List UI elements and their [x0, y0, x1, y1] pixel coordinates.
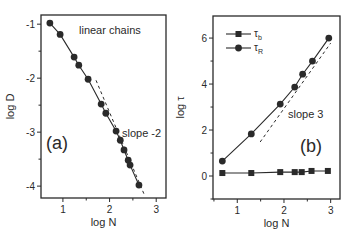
circle-marker: [121, 147, 128, 154]
legend-label: τb: [254, 28, 262, 41]
y-axis-label: log τ: [174, 96, 186, 119]
x-axis-label: log N: [91, 216, 117, 228]
y-tick-label: 0: [201, 171, 207, 182]
circle-marker: [309, 58, 316, 65]
x-tick-label: 1: [234, 205, 240, 216]
two-panel-chart: 123-1-2-3-4log Nlog Dlinear chainsslope …: [0, 0, 353, 244]
legend-square-marker: [236, 31, 242, 37]
annotation-text: linear chains: [79, 24, 141, 36]
circle-marker: [127, 162, 134, 169]
reference-slope-line: [260, 43, 331, 142]
panel-label: (b): [300, 136, 322, 156]
y-tick-label: -1: [26, 19, 35, 30]
circle-marker: [325, 35, 332, 42]
circle-marker: [299, 71, 306, 78]
circle-marker: [136, 182, 143, 189]
y-tick-label: 6: [201, 33, 207, 44]
panel-a-chart: 123-1-2-3-4log Nlog Dlinear chainsslope …: [4, 15, 166, 228]
y-tick-label: -2: [26, 73, 35, 84]
circle-marker: [85, 76, 92, 83]
circle-marker: [291, 84, 298, 91]
circle-marker: [46, 20, 53, 27]
square-marker: [277, 169, 283, 175]
square-marker: [299, 169, 305, 175]
circle-marker: [75, 62, 82, 69]
circle-marker: [102, 110, 109, 117]
x-tick-label: 3: [153, 204, 159, 215]
slope-annotation: slope 3: [288, 108, 323, 120]
legend-circle-marker: [235, 45, 242, 52]
circle-marker: [248, 131, 255, 138]
square-marker: [325, 168, 331, 174]
square-marker: [248, 170, 254, 176]
y-tick-label: 4: [201, 79, 207, 90]
circle-marker: [98, 101, 105, 108]
circle-marker: [57, 31, 64, 38]
legend: τbτR: [226, 28, 263, 55]
y-tick-label: 2: [201, 125, 207, 136]
figure: 123-1-2-3-4log Nlog Dlinear chainsslope …: [0, 0, 353, 244]
x-tick-label: 1: [60, 204, 66, 215]
panel-label: (a): [46, 133, 68, 153]
circle-marker: [71, 54, 78, 61]
y-tick-label: -4: [26, 181, 35, 192]
circle-marker: [113, 128, 120, 135]
square-marker: [292, 169, 298, 175]
panel-b-chart: 1230246log Nlog τslope 3(b)τbτR: [174, 16, 340, 229]
y-axis-label: log D: [4, 94, 16, 120]
x-tick-label: 3: [328, 205, 334, 216]
x-tick-label: 2: [107, 204, 113, 215]
circle-marker: [277, 101, 284, 108]
x-tick-label: 2: [281, 205, 287, 216]
circle-marker: [219, 158, 226, 165]
slope-annotation: slope -2: [122, 127, 161, 139]
x-axis-label: log N: [264, 217, 290, 229]
square-marker: [219, 170, 225, 176]
square-marker: [309, 168, 315, 174]
legend-label: τR: [254, 42, 263, 55]
y-tick-label: -3: [26, 127, 35, 138]
